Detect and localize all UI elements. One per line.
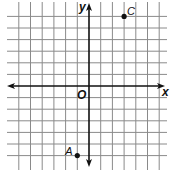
point-label-a: A	[64, 145, 72, 157]
point-c	[122, 14, 127, 19]
point-a	[75, 153, 80, 158]
y-axis-label: y	[78, 0, 87, 14]
x-axis-label: x	[161, 85, 170, 99]
point-label-c: C	[127, 5, 135, 17]
coordinate-plane: x y O CA	[0, 0, 171, 172]
origin-label: O	[77, 88, 87, 102]
